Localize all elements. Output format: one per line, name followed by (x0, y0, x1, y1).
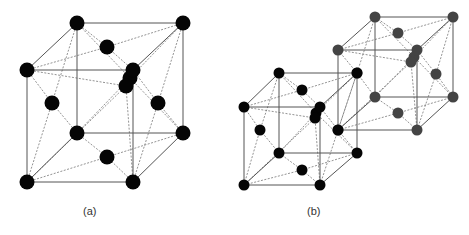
corner-atom (370, 92, 381, 103)
face-atom (255, 125, 266, 136)
face-atom (297, 85, 308, 96)
corner-atom (274, 148, 285, 159)
corner-atom (370, 12, 381, 23)
corner-atom (315, 102, 326, 113)
corner-atom (333, 45, 344, 56)
face-atom (119, 79, 134, 94)
corner-atom (352, 148, 363, 159)
label-a: (a) (83, 205, 96, 217)
corner-atom (448, 92, 459, 103)
corner-atom (126, 63, 141, 78)
face-diagonal-line (126, 86, 133, 182)
corner-atom (412, 45, 423, 56)
corner-atom (70, 126, 85, 141)
corner-atom (176, 126, 191, 141)
corner-atom (20, 175, 35, 190)
face-diagonal-line (107, 23, 183, 47)
corner-atom (448, 12, 459, 23)
cube-a (20, 16, 191, 190)
lattice-diagram (0, 0, 469, 235)
face-diagonal-line (244, 130, 260, 185)
face-diagonal-line (411, 62, 417, 130)
face-atom (393, 28, 404, 39)
corner-atom (126, 175, 141, 190)
corner-atom (352, 68, 363, 79)
face-atom (45, 96, 60, 111)
corner-atom (315, 180, 326, 191)
label-b: (b) (307, 205, 320, 217)
corner-atom (70, 16, 85, 31)
corner-atom (274, 68, 285, 79)
corner-atom (176, 16, 191, 31)
face-atom (297, 165, 308, 176)
face-diagonal-line (302, 153, 357, 170)
corner-atom (412, 125, 423, 136)
face-atom (310, 113, 321, 124)
corner-atom (239, 102, 250, 113)
face-atom (393, 108, 404, 119)
face-atom (431, 69, 442, 80)
cube-edge-line (320, 153, 357, 185)
fcc-lattice-figure: (a) (b) (0, 0, 469, 235)
face-atom (151, 96, 166, 111)
face-diagonal-line (315, 118, 320, 185)
face-diagonal-line (27, 157, 107, 182)
corner-atom (239, 180, 250, 191)
face-atom (100, 150, 115, 165)
cube-b-black (239, 68, 363, 191)
face-atom (100, 40, 115, 55)
corner-atom (20, 63, 35, 78)
face-atom (333, 125, 344, 136)
face-atom (406, 57, 417, 68)
